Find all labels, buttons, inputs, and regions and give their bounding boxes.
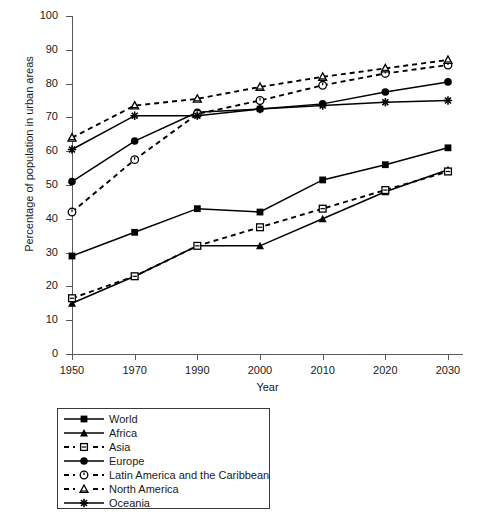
legend-item-asia[interactable]: Asia	[58, 440, 269, 454]
marker-filled-triangle	[319, 215, 327, 222]
marker-filled-square	[382, 161, 389, 168]
marker-open-square	[194, 242, 201, 249]
series-line	[72, 170, 448, 304]
legend-item-label: North America	[109, 483, 179, 495]
legend-item-europe[interactable]: Europe	[58, 454, 269, 468]
legend-item-label: Latin America and the Caribbean	[109, 469, 269, 481]
marker-asterisk	[318, 101, 326, 109]
marker-open-circle	[68, 208, 76, 216]
legend-item-label: Europe	[109, 455, 144, 467]
marker-open-square	[69, 295, 76, 302]
marker-filled-circle	[68, 178, 76, 186]
marker-filled-square	[69, 253, 76, 260]
marker-filled-circle	[382, 88, 390, 96]
marker-filled-circle	[80, 457, 88, 465]
chart-legend: WorldAfricaAsiaEuropeLatin America and t…	[57, 408, 270, 509]
marker-open-triangle	[68, 134, 76, 141]
marker-open-square	[81, 444, 88, 451]
legend-item-label: Asia	[109, 441, 130, 453]
legend-item-label: Oceania	[109, 497, 150, 509]
series-layer	[0, 0, 483, 400]
marker-filled-circle	[131, 137, 139, 145]
legend-item-oceania[interactable]: Oceania	[58, 496, 269, 510]
marker-filled-square	[319, 177, 326, 184]
marker-open-square	[319, 205, 326, 212]
legend-item-label: Africa	[109, 427, 137, 439]
marker-asterisk	[130, 112, 138, 120]
legend-key-icon	[62, 440, 106, 454]
legend-key-icon	[62, 482, 106, 496]
marker-open-square	[257, 224, 264, 231]
marker-asterisk	[68, 145, 76, 153]
legend-key-icon	[62, 496, 106, 510]
marker-asterisk	[444, 96, 452, 104]
marker-open-triangle	[444, 56, 452, 63]
marker-open-circle	[131, 156, 139, 164]
marker-filled-square	[194, 205, 201, 212]
marker-open-circle	[80, 471, 88, 479]
marker-open-square	[382, 187, 389, 194]
marker-asterisk	[80, 499, 88, 507]
marker-asterisk	[381, 98, 389, 106]
marker-asterisk	[256, 105, 264, 113]
marker-filled-square	[445, 144, 452, 151]
legend-key-icon	[62, 468, 106, 482]
marker-filled-square	[131, 229, 138, 236]
legend-item-world[interactable]: World	[58, 412, 269, 426]
legend-key-icon	[62, 454, 106, 468]
legend-key-icon	[62, 426, 106, 440]
series-europe	[68, 78, 452, 185]
marker-open-square	[131, 273, 138, 280]
marker-filled-square	[81, 416, 88, 423]
series-oceania	[68, 96, 452, 153]
marker-open-triangle	[80, 485, 88, 492]
marker-open-circle	[319, 81, 327, 89]
marker-open-circle	[256, 97, 264, 105]
urban-population-line-chart: 0102030405060708090100 19501970199020002…	[0, 0, 483, 518]
marker-asterisk	[193, 112, 201, 120]
marker-open-square	[445, 168, 452, 175]
marker-filled-square	[257, 209, 264, 216]
legend-item-label: World	[109, 413, 138, 425]
legend-item-africa[interactable]: Africa	[58, 426, 269, 440]
legend-item-north-america[interactable]: North America	[58, 482, 269, 496]
marker-filled-circle	[444, 78, 452, 86]
legend-key-icon	[62, 412, 106, 426]
legend-item-latin-america-and-the-caribbean[interactable]: Latin America and the Caribbean	[58, 468, 269, 482]
